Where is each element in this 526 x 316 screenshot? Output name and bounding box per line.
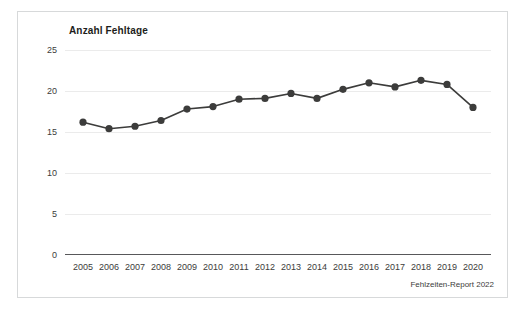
data-point-marker (443, 81, 450, 88)
x-tick-label: 2008 (151, 262, 171, 272)
x-tick-label: 2011 (229, 262, 248, 272)
y-tick-label: 20 (47, 86, 57, 96)
data-point-marker (313, 95, 320, 102)
x-tick-label: 2017 (385, 262, 405, 272)
data-point-marker (183, 105, 190, 112)
data-point-marker (339, 86, 346, 93)
data-point-marker (209, 103, 216, 110)
x-tick-label: 2014 (307, 262, 327, 272)
data-point-marker (287, 90, 294, 97)
y-tick-label: 25 (47, 45, 57, 55)
x-tick-label: 2020 (463, 262, 483, 272)
y-tick-label: 10 (47, 168, 57, 178)
data-point-marker (417, 77, 424, 84)
data-point-marker (469, 104, 476, 111)
x-tick-label: 2009 (177, 262, 197, 272)
y-tick-label: 5 (52, 209, 57, 219)
x-tick-label: 2005 (73, 262, 93, 272)
x-tick-label: 2013 (281, 262, 301, 272)
data-point-marker (391, 83, 398, 90)
y-tick-label: 0 (52, 250, 57, 260)
data-point-marker (235, 96, 242, 103)
x-tick-label: 2016 (359, 262, 379, 272)
series-line (83, 80, 473, 128)
source-note: Fehlzeiten-Report 2022 (410, 280, 494, 289)
x-tick-label: 2015 (333, 262, 353, 272)
data-point-marker (131, 123, 138, 130)
line-series-anzahl-fehltage (65, 50, 491, 255)
x-tick-label: 2006 (99, 262, 119, 272)
data-point-marker (105, 125, 112, 132)
data-point-marker (79, 119, 86, 126)
chart-title: Anzahl Fehltage (69, 25, 148, 36)
plot-area: 0510152025 20052006200720082009201020112… (65, 50, 491, 255)
x-tick-label: 2018 (411, 262, 431, 272)
x-tick-label: 2019 (437, 262, 457, 272)
x-tick-label: 2012 (255, 262, 275, 272)
x-tick-label: 2007 (125, 262, 145, 272)
x-tick-label: 2010 (203, 262, 223, 272)
chart-panel: Anzahl Fehltage 0510152025 2005200620072… (17, 11, 508, 298)
data-point-marker (365, 79, 372, 86)
y-tick-label: 15 (47, 127, 57, 137)
data-point-marker (157, 117, 164, 124)
data-point-marker (261, 95, 268, 102)
